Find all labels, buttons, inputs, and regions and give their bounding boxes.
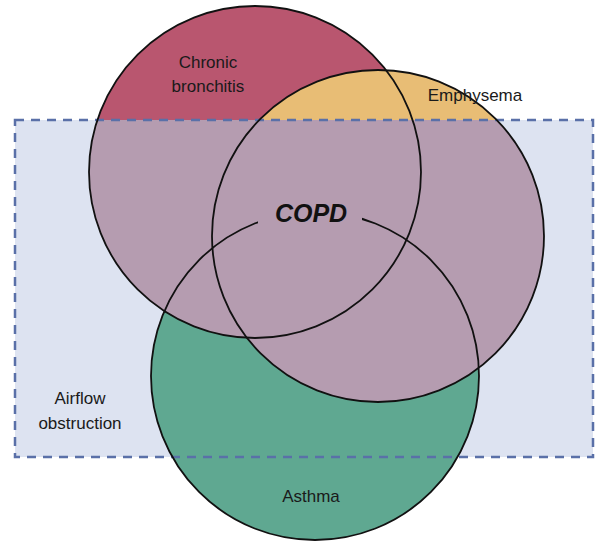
chronic-bronchitis-label-line1: Chronic	[179, 53, 238, 72]
airflow-obstruction-label-line2: obstruction	[38, 414, 121, 433]
airflow-obstruction-label-line1: Airflow	[54, 389, 106, 408]
emphysema-label: Emphysema	[428, 86, 523, 105]
chronic-bronchitis-label-line2: bronchitis	[172, 77, 245, 96]
copd-label: COPD	[275, 199, 347, 227]
copd-venn-diagram: COPD Chronic bronchitis Emphysema Asthma…	[0, 0, 600, 552]
asthma-label: Asthma	[282, 487, 340, 506]
